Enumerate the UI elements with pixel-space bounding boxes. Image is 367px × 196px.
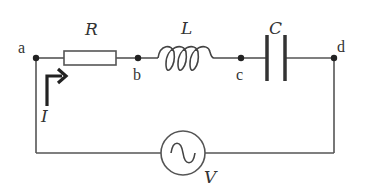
node-label-b: b <box>133 66 141 83</box>
current-label: I <box>40 106 48 126</box>
node-label-d: d <box>337 38 345 55</box>
inductor-label: L <box>180 18 192 38</box>
resistor <box>64 51 116 65</box>
node-dot-b <box>135 55 141 61</box>
node-label-a: a <box>18 39 25 56</box>
node-dot-a <box>33 55 39 61</box>
capacitor-label: C <box>269 18 282 38</box>
resistor-label: R <box>84 19 98 39</box>
node-dot-c <box>238 55 244 61</box>
node-label-c: c <box>236 66 243 83</box>
inductor-coil <box>158 47 214 71</box>
ac-voltage-source <box>161 131 205 175</box>
source-label: V <box>204 167 218 187</box>
node-dot-d <box>331 55 337 61</box>
current-arrow-icon <box>47 69 66 106</box>
circuit-diagram: R L C V I a b c d <box>0 0 367 196</box>
